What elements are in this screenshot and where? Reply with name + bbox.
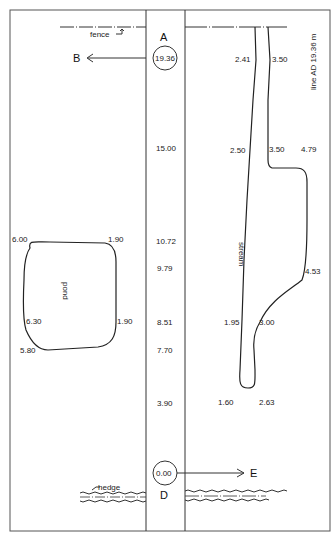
chainage-9-79: 9.79 [157, 264, 173, 273]
station-b-label: B [73, 52, 80, 64]
pond-offset-top-right: 1.90 [108, 235, 124, 244]
chainage-8-51: 8.51 [157, 318, 173, 327]
line-length-label: line AD 19.36 m [309, 33, 318, 90]
stream-offset-mid-right: 4.53 [305, 267, 321, 276]
stream-offset-lower-left: 1.95 [224, 318, 240, 327]
station-a-label: A [160, 31, 168, 43]
pond-offset-top-left: 6.00 [12, 235, 28, 244]
stream-offset-bottom-left: 1.60 [218, 398, 234, 407]
stream-offset-upper-left: 2.50 [230, 146, 246, 155]
hedge-label: hedge [98, 483, 121, 492]
arrow-to-e-icon [177, 469, 244, 477]
chainage-15: 15.00 [156, 144, 177, 153]
stream-offset-top-right: 3.50 [272, 55, 288, 64]
chainage-7-70: 7.70 [157, 346, 173, 355]
stream-offset-upper-mid: 3.50 [269, 145, 285, 154]
stream-offset-bottom-right: 2.63 [259, 398, 275, 407]
station-d-label: D [160, 489, 168, 501]
pond-label: pond [61, 282, 70, 300]
stream-outline [240, 27, 307, 388]
stream-offset-top-left: 2.41 [235, 55, 251, 64]
station-d-value: 0.00 [156, 469, 172, 478]
stream-label: stream [237, 242, 246, 267]
fence-label: fence [90, 30, 110, 39]
stream-offset-lower-mid: 3.00 [259, 318, 275, 327]
station-e-label: E [250, 467, 257, 479]
station-a-value: 19.36 [155, 54, 176, 63]
chainage-10-72: 10.72 [156, 237, 177, 246]
arrow-to-b-icon [87, 54, 146, 62]
pond-offset-bottom-left: 5.80 [20, 346, 36, 355]
stream-offset-upper-right: 4.79 [301, 145, 317, 154]
chainage-3-90: 3.90 [157, 399, 173, 408]
pond-offset-mid-right: 1.90 [117, 317, 133, 326]
pond-offset-mid-left: 6.30 [26, 317, 42, 326]
survey-diagram: fence A 19.36 B line AD 19.36 m 15.00 10… [0, 0, 336, 541]
